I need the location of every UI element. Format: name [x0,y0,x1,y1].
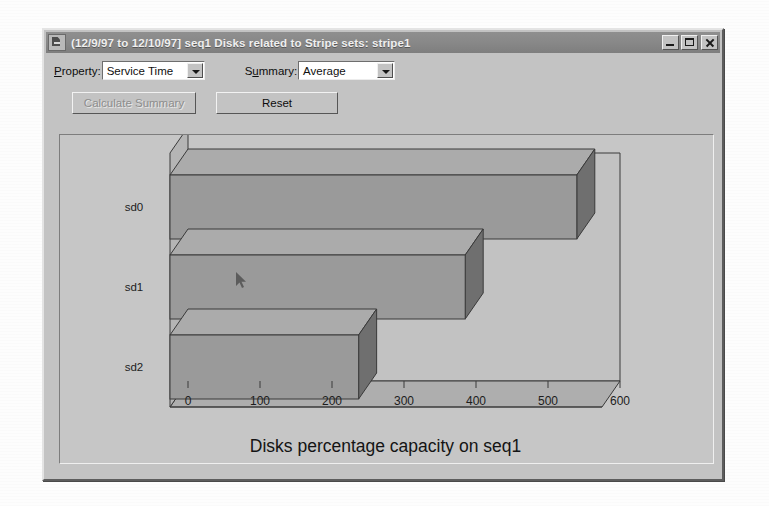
category-label-sd2: sd2 [125,361,144,373]
bar-sd0[interactable] [170,149,595,239]
bar-sd2[interactable] [170,309,377,399]
chevron-down-icon[interactable] [377,63,393,78]
property-label-accel: P [54,65,62,77]
minimize-icon[interactable] [662,35,679,50]
summary-label: Summary: [245,65,297,77]
summary-combobox-value: Average [299,65,377,77]
maximize-icon[interactable] [681,35,698,50]
reset-button[interactable]: Reset [216,92,338,114]
x-tick-label: 500 [538,394,558,408]
title-bar[interactable]: (12/9/97 to 12/10/97] seq1 Disks related… [46,32,720,53]
calculate-summary-button[interactable]: Calculate Summary [72,92,196,114]
x-tick-label: 100 [250,394,270,408]
bar-top-face [170,229,483,255]
action-toolbar: Calculate Summary Reset [72,92,338,114]
property-label-rest: roperty: [62,65,101,77]
selector-toolbar: Property: Service Time Summary: Average [54,60,710,81]
property-label: Property: [54,65,101,77]
property-combobox[interactable]: Service Time [102,61,205,80]
x-tick-label: 300 [394,394,414,408]
x-tick-label: 0 [185,394,192,408]
chevron-down-icon[interactable] [187,63,203,78]
chart-panel: sd0sd1sd20100200300400500600 Disks perce… [59,134,714,464]
window-title: (12/9/97 to 12/10/97] seq1 Disks related… [71,37,660,49]
x-tick-label: 400 [466,394,486,408]
bar-top-face [170,149,595,175]
application-icon[interactable] [48,34,66,51]
bar-sd1[interactable] [170,229,483,319]
bar-front-face [170,335,359,399]
screenshot-root: (12/9/97 to 12/10/97] seq1 Disks related… [0,0,769,506]
bar-top-face [170,309,377,335]
summary-combobox[interactable]: Average [298,61,395,80]
property-combobox-value: Service Time [103,65,187,77]
close-icon[interactable] [701,35,718,50]
summary-label-rest: mmary: [259,65,297,77]
application-window: (12/9/97 to 12/10/97] seq1 Disks related… [42,28,724,481]
chart-title: Disks percentage capacity on seq1 [60,436,711,457]
x-tick-label: 200 [322,394,342,408]
bar-chart-svg: sd0sd1sd20100200300400500600 [60,135,711,461]
cursor-arrow-icon [236,272,248,289]
x-tick-label: 600 [610,394,630,408]
category-label-sd1: sd1 [125,281,144,293]
chart-plot-area[interactable]: sd0sd1sd20100200300400500600 [60,135,711,461]
category-label-sd0: sd0 [125,201,144,213]
